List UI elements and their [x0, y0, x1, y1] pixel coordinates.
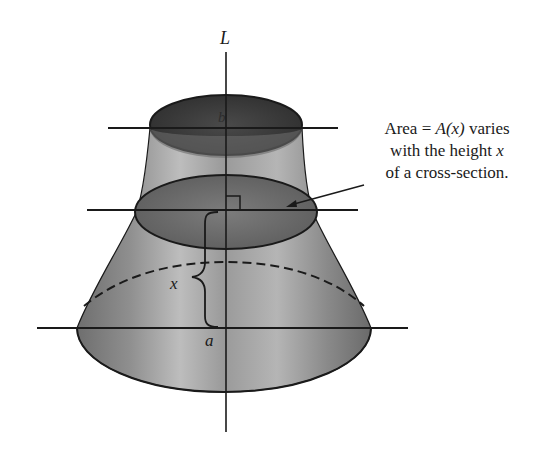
height-x-label: x — [169, 274, 178, 293]
annotation-line-1: Area = A(x) varies — [352, 118, 542, 140]
annotation-line-2: with the height x — [352, 140, 542, 162]
top-height-b-label: b — [218, 109, 226, 125]
solid-body — [77, 128, 371, 392]
solid-of-revolution-diagram: L b x a — [0, 0, 548, 456]
area-annotation: Area = A(x) varies with the height x of … — [352, 118, 542, 184]
axis-L-label: L — [219, 28, 230, 48]
annotation-line-3: of a cross-section. — [352, 162, 542, 184]
base-height-a-label: a — [205, 331, 214, 350]
